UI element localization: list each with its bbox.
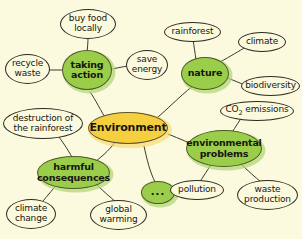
node-harmful-consequences-label: harmful consequences xyxy=(35,162,112,182)
node-environmental-problems-label: environmental problems xyxy=(184,138,263,158)
node-nature-label: nature xyxy=(186,68,224,78)
edge-env-problems-waste-production xyxy=(240,163,261,182)
node-buy-food-locally-label: buy food locally xyxy=(67,14,109,33)
node-destruction-of-the-rainforest[interactable]: destruction of the rainforest xyxy=(3,108,83,139)
node-environmental-problems[interactable]: environmental problems xyxy=(186,130,262,167)
node-biodiversity-label: biodiversity xyxy=(243,81,298,91)
node-waste-production-label: waste production xyxy=(242,185,293,204)
node-taking-action[interactable]: taking action xyxy=(62,50,112,90)
node-global-warming-label: global warming xyxy=(97,205,139,224)
node-climate-label: climate xyxy=(244,37,280,47)
node-environment-label: Environment xyxy=(88,122,169,134)
node-biodiversity[interactable]: biodiversity xyxy=(241,76,300,96)
node-pollution-label: pollution xyxy=(176,185,218,195)
node-climate-change-label: climate change xyxy=(13,204,49,223)
node-co2-emissions-label: CO2 emissions xyxy=(223,105,290,117)
edge-nature-rainforest xyxy=(193,40,196,60)
node-save-energy[interactable]: save energy xyxy=(126,50,168,80)
node-rainforest[interactable]: rainforest xyxy=(164,22,221,42)
node-ellipsis-label: ... xyxy=(149,187,167,198)
node-environment[interactable]: Environment xyxy=(88,112,168,144)
mind-map-canvas: Environment taking action nature environ… xyxy=(0,0,302,239)
edge-harmful-global-warming xyxy=(95,183,116,202)
node-destruction-of-the-rainforest-label: destruction of the rainforest xyxy=(11,114,76,133)
node-recycle-waste[interactable]: recycle waste xyxy=(5,54,50,84)
node-buy-food-locally[interactable]: buy food locally xyxy=(60,9,116,39)
node-recycle-waste-label: recycle waste xyxy=(10,59,45,78)
edge-center-nature xyxy=(158,83,197,117)
edge-nature-climate xyxy=(220,47,246,62)
node-taking-action-label: taking action xyxy=(69,60,106,80)
node-waste-production[interactable]: waste production xyxy=(237,180,298,210)
node-global-warming[interactable]: global warming xyxy=(90,200,147,230)
node-climate[interactable]: climate xyxy=(238,32,286,52)
node-pollution[interactable]: pollution xyxy=(170,180,224,200)
node-rainforest-label: rainforest xyxy=(170,27,216,37)
edge-center-ellipsis xyxy=(144,146,155,182)
node-co2-emissions[interactable]: CO2 emissions xyxy=(220,101,294,121)
node-nature[interactable]: nature xyxy=(181,57,229,90)
node-climate-change[interactable]: climate change xyxy=(6,199,56,229)
node-harmful-consequences[interactable]: harmful consequences xyxy=(37,156,110,189)
node-save-energy-label: save energy xyxy=(130,55,164,74)
